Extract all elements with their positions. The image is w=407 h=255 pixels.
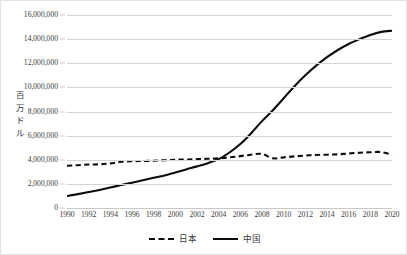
y-axis-tick-label: 14,000,000: [24, 35, 58, 43]
x-axis-tick-label: 2006: [233, 211, 248, 219]
legend-entry-china: 中国: [213, 235, 261, 244]
y-axis-tick-mark: [60, 135, 65, 136]
x-axis-tick-label: 1992: [81, 211, 96, 219]
y-axis-tick-labels: 16,000,00014,000,00012,000,00010,000,000…: [1, 1, 67, 254]
gridline: [67, 63, 392, 64]
x-axis-tick-label: 2012: [298, 211, 313, 219]
y-axis-tick-mark: [60, 183, 65, 184]
x-axis-tick-label: 2004: [211, 211, 226, 219]
gridline: [67, 87, 392, 88]
x-axis-tick-label: 1998: [146, 211, 161, 219]
gridline: [67, 112, 392, 113]
legend-swatch-solid-icon: [213, 238, 238, 240]
y-axis-tick-mark: [60, 63, 65, 64]
x-axis-tick-label: 2014: [319, 211, 334, 219]
x-axis-tick-label: 2008: [254, 211, 269, 219]
legend-label-china: 中国: [243, 235, 261, 244]
y-axis-tick-mark: [60, 87, 65, 88]
series-line-china: [67, 31, 392, 196]
plot-area: [67, 15, 392, 208]
y-axis-tick-label: 0: [54, 204, 58, 212]
x-axis-tick-label: 1996: [124, 211, 139, 219]
x-axis-tick-labels: 1990199219941996199820002002200420062008…: [67, 211, 392, 225]
y-axis-tick-label: 4,000,000: [28, 156, 58, 164]
legend-label-japan: 日本: [179, 235, 197, 244]
y-axis-tick-label: 12,000,000: [24, 59, 58, 67]
x-axis-tick-label: 2000: [168, 211, 183, 219]
gridline: [67, 184, 392, 185]
x-axis-tick-label: 2002: [189, 211, 204, 219]
gridline: [67, 39, 392, 40]
chart-legend: 日本 中国: [1, 235, 407, 244]
y-axis-tick-label: 8,000,000: [28, 108, 58, 116]
gridline: [67, 136, 392, 137]
gridline: [67, 160, 392, 161]
legend-entry-japan: 日本: [149, 235, 197, 244]
y-axis-tick-label: 2,000,000: [28, 180, 58, 188]
y-axis-tick-label: 6,000,000: [28, 132, 58, 140]
x-axis-tick-label: 2020: [384, 211, 399, 219]
gridline: [67, 15, 392, 16]
y-axis-tick-label: 16,000,000: [24, 11, 58, 19]
y-axis-tick-label: 10,000,000: [24, 84, 58, 92]
x-axis-tick-label: 2010: [276, 211, 291, 219]
x-axis-tick-label: 2018: [363, 211, 378, 219]
y-axis-tick-mark: [60, 15, 65, 16]
y-axis-tick-mark: [60, 111, 65, 112]
x-axis-tick-label: 1994: [103, 211, 118, 219]
line-chart: 百 万 ド ル 16,000,00014,000,00012,000,00010…: [0, 0, 407, 255]
x-axis-tick-label: 2016: [341, 211, 356, 219]
gridline: [67, 208, 392, 209]
legend-swatch-dashed-icon: [149, 238, 174, 240]
y-axis-tick-mark: [60, 159, 65, 160]
y-axis-tick-mark: [60, 208, 65, 209]
x-axis-tick-label: 1990: [59, 211, 74, 219]
y-axis-tick-mark: [60, 39, 65, 40]
